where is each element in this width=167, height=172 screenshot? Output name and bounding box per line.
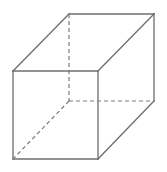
edge-bottom-right-diagonal xyxy=(98,101,154,159)
edge-bottom-left-diagonal-hidden xyxy=(13,101,69,159)
edge-top-left-diagonal xyxy=(13,14,69,71)
cube-diagram xyxy=(0,0,167,172)
edge-top-right-diagonal xyxy=(98,14,154,71)
cube-svg xyxy=(0,0,167,172)
